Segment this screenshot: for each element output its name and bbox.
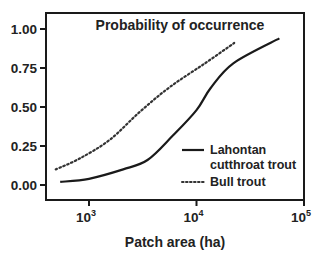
legend-label-bull-trout: Bull trout [210,175,266,189]
x-axis-label: Patch area (ha) [125,234,225,250]
legend: Lahontan cutthroat trout Bull trout [182,143,297,189]
y-tick-label: 0.25 [11,139,38,154]
y-tick-label: 0.50 [11,100,37,115]
legend-label-lahontan-1: Lahontan [210,143,266,157]
y-axis: 0.000.250.500.751.00 [11,22,46,193]
line-bull-trout [56,43,235,169]
x-axis: 103104105 [76,200,311,225]
x-tick-label: 105 [291,208,311,225]
x-tick-label: 103 [76,208,96,225]
x-tick-label: 104 [183,208,203,225]
chart-svg: Probability of occurrence 0.000.250.500.… [0,0,322,256]
y-tick-label: 0.00 [11,178,37,193]
legend-label-lahontan-2: cutthroat trout [210,158,297,172]
y-tick-label: 1.00 [11,22,37,37]
y-tick-label: 0.75 [11,61,38,76]
chart-title: Probability of occurrence [96,17,265,33]
